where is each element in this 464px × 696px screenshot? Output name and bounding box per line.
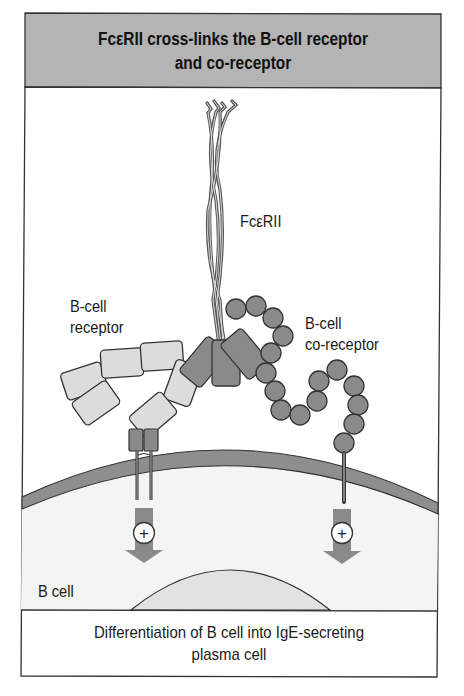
figure-caption: Differentiation of B cell into IgE-secre…	[46, 611, 412, 677]
fcerii-label: FcεRII	[240, 211, 281, 232]
coreceptor-label-line-1: B-cell	[305, 313, 379, 334]
b-cell-label: B cell	[38, 581, 74, 602]
title-line-2: and co-receptor	[98, 51, 368, 75]
bcr-label: B-cell receptor	[70, 296, 124, 338]
coreceptor-plus-icon: +	[337, 524, 347, 543]
caption-line-1: Differentiation of B cell into IgE-secre…	[94, 622, 364, 644]
bcr-label-line-2: receptor	[70, 317, 124, 338]
coreceptor-label-line-2: co-receptor	[305, 334, 379, 355]
title-line-1: FcεRII cross-links the B-cell receptor	[98, 27, 368, 51]
figure-title: FcεRII cross-links the B-cell receptor a…	[50, 13, 416, 88]
bcr-label-line-1: B-cell	[70, 296, 124, 317]
bcr-plus-icon: +	[139, 524, 149, 543]
coreceptor-label: B-cell co-receptor	[305, 313, 379, 355]
caption-line-2: plasma cell	[94, 644, 364, 666]
